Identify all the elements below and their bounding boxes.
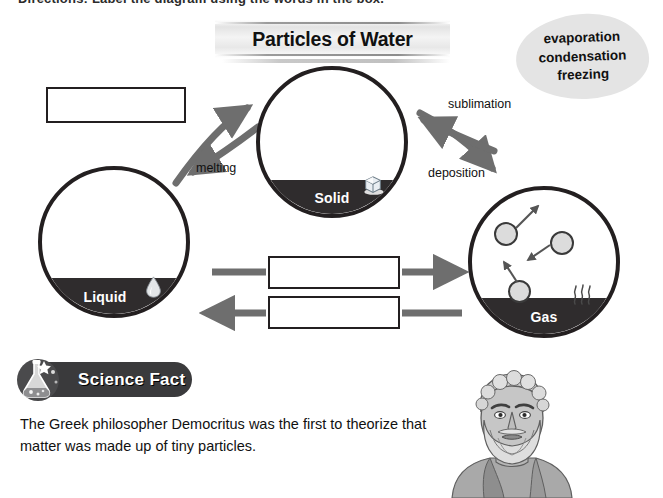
particle-motion-arrows bbox=[472, 190, 620, 338]
state-label-liquid: Liquid bbox=[42, 289, 186, 305]
arrow-label-melting: melting bbox=[196, 161, 236, 175]
science-fact-body: The Greek philosopher Democritus was the… bbox=[20, 414, 440, 458]
arrow-label-deposition: deposition bbox=[428, 166, 485, 180]
democritus-bust-illustration bbox=[444, 368, 580, 498]
state-circle-gas: Gas bbox=[468, 186, 620, 338]
state-circle-solid: Solid bbox=[256, 66, 408, 218]
page-title: Particles of Water bbox=[252, 28, 412, 51]
state-circle-liquid: Liquid bbox=[38, 166, 190, 318]
banner-rule-bottom bbox=[215, 54, 450, 56]
worksheet-page: Directions: Label the diagram using the … bbox=[0, 0, 663, 498]
banner-rule-top bbox=[215, 22, 450, 24]
water-drop-icon bbox=[145, 276, 162, 298]
blank-evaporation-box[interactable] bbox=[268, 256, 400, 289]
science-fact-banner: Science Fact bbox=[18, 362, 192, 397]
flask-icon bbox=[14, 355, 66, 403]
arrow-label-sublimation: sublimation bbox=[448, 97, 511, 111]
blank-freezing-box[interactable] bbox=[46, 87, 186, 123]
science-fact-label: Science Fact bbox=[78, 370, 186, 390]
banner-shadow bbox=[222, 59, 450, 63]
blank-condensation-box[interactable] bbox=[268, 296, 400, 329]
ice-cube-icon bbox=[362, 174, 384, 196]
directions-line: Directions: Label the diagram using the … bbox=[18, 0, 384, 6]
title-banner: Particles of Water bbox=[215, 20, 450, 58]
word-bank-item-evaporation: evaporation bbox=[543, 27, 620, 47]
word-bank-item-freezing: freezing bbox=[557, 65, 609, 85]
word-bank-item-condensation: condensation bbox=[538, 46, 626, 67]
steam-icon bbox=[570, 282, 596, 306]
word-bank: evaporation condensation freezing bbox=[515, 12, 651, 102]
